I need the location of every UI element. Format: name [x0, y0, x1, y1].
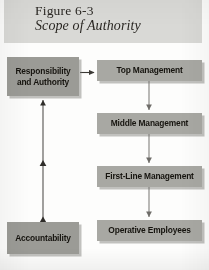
node-operative-employees-label: Operative Employees	[108, 225, 190, 236]
arrow-accountability-to-responsibility	[40, 100, 47, 223]
figure-number-label: Figure 6-3	[35, 3, 94, 19]
node-middle-management-label: Middle Management	[111, 118, 189, 129]
node-operative-employees[interactable]: Operative Employees	[97, 220, 202, 241]
node-top-management[interactable]: Top Management	[97, 60, 202, 81]
figure-title: Scope of Authority	[35, 18, 141, 34]
node-first-line-management[interactable]: First-Line Management	[97, 166, 202, 187]
node-first-line-management-label: First-Line Management	[105, 171, 194, 182]
node-accountability-label: Accountability	[15, 233, 71, 244]
figure-canvas: Figure 6-3 Scope of Authority	[0, 0, 209, 270]
node-responsibility-line2: and Authority	[15, 77, 70, 88]
node-responsibility-line1: Responsibility	[15, 66, 70, 77]
node-responsibility-and-authority[interactable]: Responsibility and Authority	[7, 57, 79, 96]
node-accountability[interactable]: Accountability	[7, 222, 79, 254]
node-middle-management[interactable]: Middle Management	[97, 113, 202, 134]
figure-title-band: Figure 6-3 Scope of Authority	[4, 0, 202, 43]
node-top-management-label: Top Management	[116, 65, 182, 76]
